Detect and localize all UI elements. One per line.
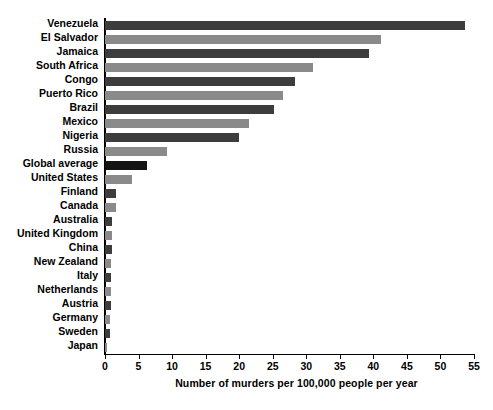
bar <box>105 329 110 338</box>
y-axis-tick-label: Canada <box>60 199 98 212</box>
x-axis-tick <box>206 354 207 359</box>
x-axis-tick-label: 20 <box>233 360 245 372</box>
bar-row: Global average <box>105 158 474 172</box>
y-axis-tick-label: Germany <box>52 311 98 324</box>
x-axis-tick <box>105 354 106 359</box>
bar-row: United Kingdom <box>105 228 474 242</box>
y-axis-tick-label: South Africa <box>36 59 98 72</box>
x-axis-title: Number of murders per 100,000 people per… <box>0 377 493 389</box>
bar-row: China <box>105 242 474 256</box>
x-axis-tick-label: 30 <box>300 360 312 372</box>
y-axis-tick-label: Netherlands <box>37 283 98 296</box>
bar-row: Germany <box>105 312 474 326</box>
bar-row: Jamaica <box>105 46 474 60</box>
y-axis-tick-label: Finland <box>61 185 98 198</box>
bar <box>105 231 112 240</box>
y-axis-tick-label: United Kingdom <box>17 227 98 240</box>
x-axis-tick <box>340 354 341 359</box>
bar-row: Brazil <box>105 102 474 116</box>
y-axis-tick-label: Jamaica <box>57 45 98 58</box>
x-axis-tick <box>139 354 140 359</box>
x-axis-tick <box>373 354 374 359</box>
x-axis-tick-label: 5 <box>136 360 142 372</box>
bar-row: Finland <box>105 186 474 200</box>
y-axis-tick-label: China <box>69 241 98 254</box>
x-axis-tick-label: 0 <box>102 360 108 372</box>
y-axis-tick-label: Japan <box>68 339 98 352</box>
y-axis-tick-label: Italy <box>77 269 98 282</box>
x-axis-tick-label: 40 <box>368 360 380 372</box>
y-axis-tick-label: Austria <box>62 297 98 310</box>
x-axis-tick <box>273 354 274 359</box>
x-axis-tick-label: 55 <box>468 360 480 372</box>
bar-row: Japan <box>105 340 474 354</box>
y-axis-tick-label: Nigeria <box>62 129 98 142</box>
bar-row: Canada <box>105 200 474 214</box>
bar-row: Puerto Rico <box>105 88 474 102</box>
y-axis-tick-label: Global average <box>23 157 98 170</box>
bar <box>105 105 274 114</box>
bar <box>105 301 111 310</box>
x-axis-tick <box>474 354 475 359</box>
bar-row: Venezuela <box>105 18 474 32</box>
bar <box>105 49 369 58</box>
x-axis-tick <box>407 354 408 359</box>
x-axis-tick-label: 15 <box>200 360 212 372</box>
bar <box>105 21 465 30</box>
x-axis-tick <box>306 354 307 359</box>
bar <box>105 203 116 212</box>
bar <box>105 273 111 282</box>
bar <box>105 133 239 142</box>
bar <box>105 245 112 254</box>
bar-row: Italy <box>105 270 474 284</box>
x-axis-tick-label: 25 <box>267 360 279 372</box>
bar-row: Sweden <box>105 326 474 340</box>
x-axis-tick <box>440 354 441 359</box>
plot-area: VenezuelaEl SalvadorJamaicaSouth AfricaC… <box>105 18 474 354</box>
bar <box>105 189 116 198</box>
bar <box>105 77 295 86</box>
x-axis-line <box>104 354 475 355</box>
bar <box>105 161 147 170</box>
y-axis-tick-label: Australia <box>53 213 98 226</box>
y-axis-tick-label: Puerto Rico <box>39 87 98 100</box>
bar <box>105 35 381 44</box>
x-axis-tick <box>239 354 240 359</box>
x-axis-tick <box>172 354 173 359</box>
bar <box>105 119 249 128</box>
bar-row: New Zealand <box>105 256 474 270</box>
x-axis-tick-label: 50 <box>435 360 447 372</box>
bar-row: Russia <box>105 144 474 158</box>
bar-row: Nigeria <box>105 130 474 144</box>
y-axis-tick-label: Mexico <box>62 115 98 128</box>
x-axis-tick-label: 45 <box>401 360 413 372</box>
bar-row: Mexico <box>105 116 474 130</box>
y-axis-tick-label: Brazil <box>69 101 98 114</box>
y-axis-tick-label: New Zealand <box>34 255 98 268</box>
y-axis-tick-label: El Salvador <box>41 31 98 44</box>
bar <box>105 343 107 352</box>
y-axis-tick-label: Venezuela <box>47 17 98 30</box>
x-axis-title-text: Number of murders per 100,000 people per… <box>75 377 418 389</box>
bar <box>105 287 111 296</box>
x-axis-tick-label: 35 <box>334 360 346 372</box>
bar-row: Congo <box>105 74 474 88</box>
y-axis-tick-label: Sweden <box>58 325 98 338</box>
y-axis-tick-label: Russia <box>64 143 98 156</box>
bar <box>105 217 112 226</box>
bar <box>105 315 110 324</box>
bar-row: Netherlands <box>105 284 474 298</box>
bar <box>105 147 167 156</box>
bar-row: Austria <box>105 298 474 312</box>
bar <box>105 259 111 268</box>
y-axis-tick-label: Congo <box>65 73 98 86</box>
y-axis-tick-label: United States <box>31 171 98 184</box>
bar-row: El Salvador <box>105 32 474 46</box>
murder-rate-bar-chart: VenezuelaEl SalvadorJamaicaSouth AfricaC… <box>0 0 493 410</box>
x-axis-tick-label: 10 <box>166 360 178 372</box>
bar-row: United States <box>105 172 474 186</box>
bar <box>105 175 132 184</box>
bar-row: Australia <box>105 214 474 228</box>
bar-row: South Africa <box>105 60 474 74</box>
bar <box>105 63 313 72</box>
